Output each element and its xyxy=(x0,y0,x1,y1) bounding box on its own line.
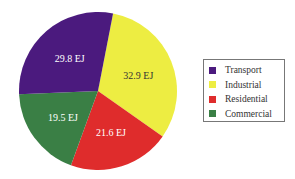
slice-label-industrial: 32.9 EJ xyxy=(123,69,153,80)
legend: Transport Industrial Residential Commerc… xyxy=(203,59,285,122)
slice-label-transport: 29.8 EJ xyxy=(55,53,85,64)
slice-label-commercial: 19.5 EJ xyxy=(48,111,78,122)
legend-item-commercial: Commercial xyxy=(209,107,284,122)
slice-label-residential: 21.6 EJ xyxy=(96,127,126,138)
legend-item-residential: Residential xyxy=(209,92,284,107)
pie-chart xyxy=(0,0,200,179)
swatch-icon xyxy=(209,67,216,74)
swatch-icon xyxy=(209,81,216,88)
swatch-icon xyxy=(209,110,216,117)
swatch-icon xyxy=(209,96,216,103)
legend-item-transport: Transport xyxy=(209,63,284,78)
legend-item-industrial: Industrial xyxy=(209,78,284,93)
